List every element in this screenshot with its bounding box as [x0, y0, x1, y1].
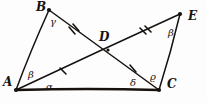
segment-ac	[16, 89, 159, 90]
vertex-label-e: E	[188, 10, 197, 22]
vertex-label-a: A	[3, 76, 12, 88]
angle-label-beta-e: β	[168, 28, 174, 38]
vertex-label-c: C	[167, 78, 177, 90]
vertex-label-b: B	[36, 1, 46, 13]
angle-label-theta-c: ϱ	[150, 72, 156, 82]
tick-mark-ad	[60, 68, 66, 74]
vertex-dot-e	[178, 12, 182, 16]
vertex-label-d: D	[99, 31, 109, 43]
segment-bc	[49, 10, 159, 90]
vertex-dot-d	[106, 48, 109, 51]
angle-label-alpha-a: α	[46, 82, 53, 92]
geometry-diagram: A B C D E β α γ δ ϱ β	[0, 0, 207, 103]
vertex-dot-b	[47, 8, 51, 12]
vertex-dot-c	[157, 88, 161, 92]
angle-label-gamma-b: γ	[50, 17, 56, 27]
angle-label-delta-c: δ	[130, 78, 136, 88]
vertex-dot-a	[14, 88, 18, 92]
angle-label-beta-a: β	[28, 70, 34, 80]
